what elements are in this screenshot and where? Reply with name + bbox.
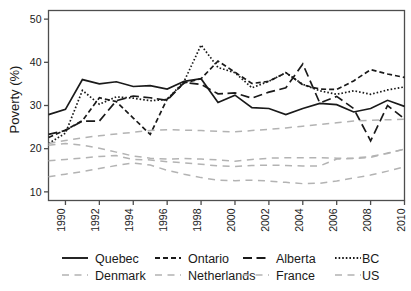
legend-label-ontario: Ontario <box>188 252 229 266</box>
chart-canvas: 1020304050 19901992199419961998200020022… <box>0 0 411 291</box>
plot-frame <box>49 11 405 201</box>
y-tick-label: 10 <box>30 186 42 198</box>
legend-label-france: France <box>276 269 315 283</box>
y-tick-label: 40 <box>30 56 42 68</box>
x-tick-label: 1994 <box>123 208 135 232</box>
x-tick-label: 2006 <box>327 208 339 232</box>
y-axis-ticks: 1020304050 <box>30 13 49 198</box>
series-line-quebec <box>49 79 405 115</box>
x-tick-label: 2010 <box>395 208 407 232</box>
x-tick-label: 1996 <box>157 208 169 232</box>
legend-label-us: US <box>362 269 379 283</box>
legend-label-bc: BC <box>362 252 379 266</box>
x-tick-label: 2002 <box>259 208 271 232</box>
y-tick-label: 30 <box>30 99 42 111</box>
series-line-bc <box>49 45 405 143</box>
x-tick-label: 1990 <box>55 208 67 232</box>
legend-label-denmark: Denmark <box>95 269 146 283</box>
poverty-line-chart-figure: Poverty (%) 1020304050 19901992199419961… <box>0 0 411 291</box>
legend-label-quebec: Quebec <box>95 252 139 266</box>
legend-label-alberta: Alberta <box>276 252 316 266</box>
series-line-us <box>49 119 405 143</box>
x-tick-label: 1992 <box>89 208 101 232</box>
x-tick-label: 1998 <box>191 208 203 232</box>
y-tick-label: 50 <box>30 13 42 25</box>
chart-legend: QuebecOntarioAlbertaBCDenmarkNetherlands… <box>62 252 379 283</box>
data-series-layer <box>49 45 405 184</box>
series-line-netherlands <box>49 144 405 162</box>
y-tick-label: 20 <box>30 142 42 154</box>
x-tick-label: 2000 <box>225 208 237 232</box>
x-tick-label: 2004 <box>293 208 305 232</box>
x-tick-label: 2008 <box>361 208 373 232</box>
x-axis-ticks: 1990199219941996199820002002200420062008… <box>55 201 406 232</box>
